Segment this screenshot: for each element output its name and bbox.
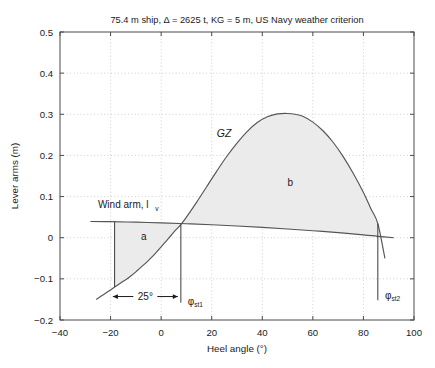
y-tick-label: 0.1 bbox=[40, 191, 53, 202]
y-tick-label: −0.1 bbox=[34, 273, 53, 284]
phi-st2-label-subscript: st2 bbox=[391, 295, 400, 302]
y-tick-label: 0.2 bbox=[40, 150, 53, 161]
y-axis-label: Lever arms (m) bbox=[9, 143, 20, 209]
x-tick-label: 40 bbox=[257, 327, 268, 338]
y-tick-label: 0.5 bbox=[40, 27, 53, 38]
y-tick-label: 0 bbox=[48, 232, 53, 243]
x-tick-label: 80 bbox=[358, 327, 369, 338]
stability-chart: 75.4 m ship, Δ = 2625 t, KG = 5 m, US Na… bbox=[0, 0, 435, 368]
x-tick-label: 100 bbox=[406, 327, 422, 338]
area-a-label: a bbox=[141, 231, 147, 242]
x-tick-label: 0 bbox=[158, 327, 163, 338]
y-tick-label: 0.4 bbox=[40, 68, 54, 79]
x-axis-label: Heel angle (°) bbox=[207, 343, 267, 354]
gz-label: GZ bbox=[217, 127, 232, 139]
y-tick-label: 0.3 bbox=[40, 109, 53, 120]
chart-title: 75.4 m ship, Δ = 2625 t, KG = 5 m, US Na… bbox=[110, 15, 363, 25]
area-b-label: b bbox=[288, 177, 294, 188]
wind-arm-label-text: Wind arm, l bbox=[98, 199, 149, 210]
dimension-25deg-text: 25° bbox=[138, 291, 153, 302]
area-a-label-text: a bbox=[141, 231, 147, 242]
x-tick-label: −20 bbox=[102, 327, 118, 338]
x-tick-label: −40 bbox=[52, 327, 68, 338]
x-tick-label: 60 bbox=[308, 327, 319, 338]
phi-st1-label-subscript: st1 bbox=[194, 301, 203, 308]
gz-label-text: GZ bbox=[217, 127, 232, 139]
x-tick-label: 20 bbox=[206, 327, 217, 338]
y-tick-label: −0.2 bbox=[34, 315, 53, 326]
area-b-label-text: b bbox=[288, 177, 294, 188]
